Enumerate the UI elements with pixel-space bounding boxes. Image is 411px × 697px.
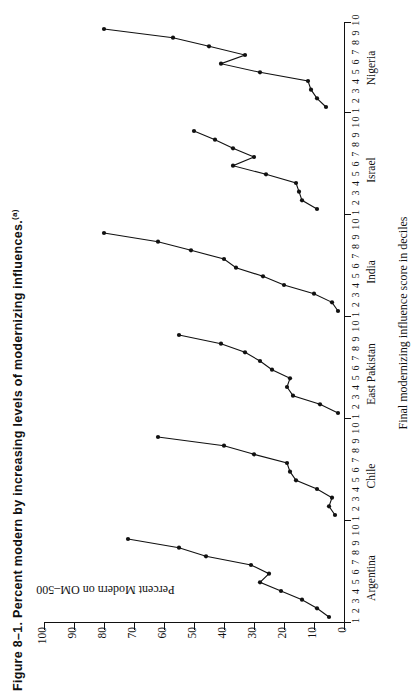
y-axis-tick-label: 20 (276, 627, 288, 667)
data-point-marker (336, 411, 340, 415)
y-axis-tick-label: 30 (246, 627, 258, 667)
data-point-marker (207, 44, 211, 48)
series-polyline (194, 131, 317, 209)
data-point-marker (306, 79, 310, 83)
data-point-marker (297, 190, 301, 194)
series-polyline (104, 233, 338, 311)
data-point-marker (243, 350, 247, 354)
data-point-marker (315, 487, 319, 491)
y-axis-tick-label: 60 (156, 627, 168, 667)
data-point-marker (330, 300, 334, 304)
country-panel (44, 125, 344, 215)
data-point-marker (294, 478, 298, 482)
series-polyline (179, 335, 338, 413)
data-point-marker (219, 342, 223, 346)
plot-area: 1009080706050403020100 Percent Modern on… (44, 23, 344, 623)
data-point-marker (270, 368, 274, 372)
data-point-marker (177, 333, 181, 337)
decile-axis-labels: 1 2 3 4 5 6 7 8 9 10 (350, 125, 361, 215)
series-polyline (158, 437, 335, 515)
data-point-marker (285, 461, 289, 465)
data-point-marker (279, 589, 283, 593)
series-line-east-pakistan (44, 329, 344, 419)
data-point-marker (258, 70, 262, 74)
figure-footnote-marker: (a) (10, 209, 19, 220)
y-axis-tick-label: 90 (66, 627, 78, 667)
data-point-marker (294, 181, 298, 185)
country-panel (44, 431, 344, 521)
series-line-nigeria (44, 23, 344, 113)
figure-title: Figure 8–1. Percent modern by increasing… (10, 209, 25, 691)
data-point-marker (204, 554, 208, 558)
data-point-marker (300, 598, 304, 602)
data-point-marker (126, 537, 130, 541)
data-point-marker (324, 105, 328, 109)
y-axis-tick-label: 100 (36, 627, 48, 667)
data-point-marker (312, 292, 316, 296)
data-point-marker (156, 435, 160, 439)
series-polyline (128, 539, 329, 617)
data-point-marker (288, 470, 292, 474)
data-point-marker (258, 580, 262, 584)
series-polyline (104, 29, 326, 107)
data-point-marker (315, 207, 319, 211)
data-point-marker (264, 172, 268, 176)
data-point-marker (333, 513, 337, 517)
x-axis-line (344, 23, 345, 623)
y-axis-tick-label: 0 (336, 627, 348, 667)
data-point-marker (249, 563, 253, 567)
data-point-marker (309, 88, 313, 92)
figure-title-text: Percent modern by increasing levels of m… (11, 220, 25, 618)
data-point-marker (261, 274, 265, 278)
series-line-argentina (44, 533, 344, 623)
y-axis-tick-label: 70 (126, 627, 138, 667)
data-point-marker (267, 572, 271, 576)
data-point-marker (219, 62, 223, 66)
y-axis-tick-label: 80 (96, 627, 108, 667)
data-point-marker (222, 444, 226, 448)
data-point-marker (252, 452, 256, 456)
data-point-marker (300, 198, 304, 202)
country-panel (44, 227, 344, 317)
country-name-label: Argentina (365, 533, 377, 623)
decile-axis-labels: 1 2 3 4 5 6 7 8 9 10 (350, 533, 361, 623)
series-line-israel (44, 125, 344, 215)
country-name-label: East Pakistan (365, 329, 377, 419)
data-point-marker (285, 385, 289, 389)
country-name-label: India (365, 227, 377, 317)
figure-number: Figure 8–1. (11, 622, 25, 691)
decile-axis-labels: 1 2 3 4 5 6 7 8 9 10 (350, 431, 361, 521)
data-point-marker (330, 496, 334, 500)
data-point-marker (231, 146, 235, 150)
data-point-marker (318, 402, 322, 406)
data-point-marker (291, 394, 295, 398)
series-line-chile (44, 431, 344, 521)
data-point-marker (234, 266, 238, 270)
data-point-marker (177, 546, 181, 550)
data-point-marker (258, 359, 262, 363)
country-name-label: Nigeria (365, 23, 377, 113)
data-point-marker (327, 615, 331, 619)
country-panel (44, 23, 344, 113)
data-point-marker (327, 504, 331, 508)
data-point-marker (222, 257, 226, 261)
data-point-marker (192, 129, 196, 133)
decile-axis-labels: 1 2 3 4 5 6 7 8 9 10 (350, 329, 361, 419)
country-name-label: Israel (365, 125, 377, 215)
country-panel (44, 533, 344, 623)
data-point-marker (288, 376, 292, 380)
data-point-marker (282, 283, 286, 287)
x-axis-label: Final modernizing influence score in dec… (396, 23, 411, 623)
data-point-marker (156, 240, 160, 244)
data-point-marker (213, 138, 217, 142)
series-line-india (44, 227, 344, 317)
y-axis-tick-label: 40 (216, 627, 228, 667)
data-point-marker (315, 96, 319, 100)
decile-axis-labels: 1 2 3 4 5 6 7 8 9 10 (350, 227, 361, 317)
data-point-marker (102, 27, 106, 31)
data-point-marker (252, 155, 256, 159)
data-point-marker (102, 231, 106, 235)
y-axis-tick-label: 10 (306, 627, 318, 667)
